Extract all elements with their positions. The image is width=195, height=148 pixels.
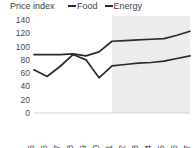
chart-header: Price index Food Energy xyxy=(0,0,195,16)
legend-label-energy: Energy xyxy=(114,1,143,11)
legend-label-food: Food xyxy=(77,1,98,11)
x-axis-tick-label: 2016 xyxy=(39,145,49,148)
y-axis-tick-label: 140 xyxy=(16,16,30,25)
y-axis-tick-label: 40 xyxy=(21,81,31,91)
x-axis-tick-label: 2023 xyxy=(130,145,140,148)
x-axis-tick-label: 2020 xyxy=(91,145,101,148)
x-axis-tick-label: 2021 xyxy=(104,145,114,148)
x-axis-tick-label: 2018 xyxy=(65,145,75,148)
x-axis-tick-label: 2024 xyxy=(143,145,153,148)
x-axis-tick-label: 2025 xyxy=(156,145,166,148)
y-axis-tick-label: 0 xyxy=(25,108,30,118)
price-index-chart: Price index Food Energy 0204060801001201… xyxy=(0,0,195,148)
legend-item-food[interactable]: Food xyxy=(68,1,98,11)
legend-item-energy[interactable]: Energy xyxy=(105,1,143,11)
x-axis-ticks: 2015201620172018201920202021202220232024… xyxy=(26,145,192,148)
y-axis-tick-label: 80 xyxy=(21,55,31,65)
y-axis-tick-label: 100 xyxy=(16,42,30,52)
y-axis-tick-label: 20 xyxy=(21,95,31,105)
chart-svg: 020406080100120140 201520162017201820192… xyxy=(0,16,195,148)
plot-area: 020406080100120140 201520162017201820192… xyxy=(0,16,195,148)
chart-legend: Food Energy xyxy=(68,1,142,11)
x-axis-tick-label: 2027 xyxy=(182,145,192,148)
y-axis-tick-label: 60 xyxy=(21,68,31,78)
line-swatch-icon xyxy=(68,5,76,7)
x-axis-tick-label: 2019 xyxy=(78,145,88,148)
y-axis-tick-label: 120 xyxy=(16,28,30,38)
y-axis-ticks: 020406080100120140 xyxy=(16,16,30,118)
x-axis-tick-label: 2022 xyxy=(117,145,127,148)
y-axis-title: Price index xyxy=(10,1,55,11)
x-axis-tick-label: 2017 xyxy=(52,145,62,148)
x-axis-tick-label: 2015 xyxy=(26,145,36,148)
line-swatch-icon xyxy=(105,5,113,7)
x-axis-tick-label: 2026 xyxy=(169,145,179,148)
